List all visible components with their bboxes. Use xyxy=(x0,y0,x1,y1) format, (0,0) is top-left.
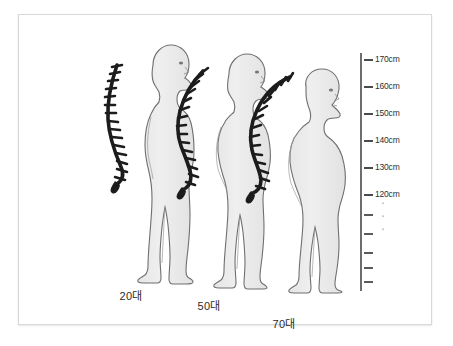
scale-tick-label: 160cm xyxy=(375,81,400,91)
figure-label-20s: 20대 xyxy=(101,287,161,303)
illustration-card: 20대 xyxy=(18,14,432,325)
scale-tick xyxy=(364,267,373,269)
scale-tick xyxy=(364,281,373,283)
scale-tick-label: 120cm xyxy=(375,189,400,199)
scale-tick xyxy=(364,167,373,169)
illustration-root: 20대 xyxy=(0,0,453,346)
scale-tick xyxy=(364,140,373,142)
scale-tick xyxy=(364,194,373,196)
body-silhouette-70s xyxy=(289,69,346,293)
scale-tick xyxy=(364,252,373,254)
height-scale: 170cm 160cm 150cm 140cm 130cm 120cm xyxy=(360,53,453,293)
scale-tick-label: 140cm xyxy=(375,135,400,145)
scale-axis-line xyxy=(360,53,362,291)
scale-tick-dot xyxy=(382,228,384,230)
spine-50s xyxy=(177,68,208,200)
spine-70s xyxy=(246,73,293,204)
figure-label-70s: 70대 xyxy=(254,315,314,331)
figure-label-50s: 50대 xyxy=(179,297,239,313)
scale-tick-label: 150cm xyxy=(375,108,400,118)
figure-70s: 70대 xyxy=(234,65,364,291)
scale-tick xyxy=(364,233,373,235)
figure-70s-graphic xyxy=(234,65,364,291)
scale-tick xyxy=(364,59,373,61)
scale-tick xyxy=(364,113,373,115)
scale-tick-dot xyxy=(382,215,384,217)
eye-70s xyxy=(329,89,333,92)
scale-tick-label: 130cm xyxy=(375,162,400,172)
scale-tick xyxy=(364,86,373,88)
scale-tick-dot xyxy=(382,202,384,204)
spine-20s xyxy=(105,65,127,194)
scale-tick-label: 170cm xyxy=(375,54,400,64)
scale-tick xyxy=(364,214,373,216)
